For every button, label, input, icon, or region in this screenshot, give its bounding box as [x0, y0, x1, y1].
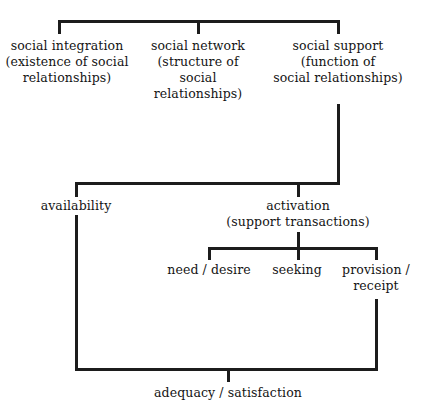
node-social-network: social network (structure of social rela… — [134, 38, 262, 102]
connector-level3-middle-stem — [297, 247, 300, 260]
node-need-desire: need / desire — [163, 262, 255, 278]
connector-availability-descender — [75, 215, 78, 371]
node-social-integration: social integration (existence of social … — [2, 38, 132, 86]
connector-level2-activation-stem — [297, 182, 300, 197]
connector-level3-left-stem — [208, 247, 211, 260]
node-social-support: social support (function of social relat… — [268, 38, 408, 86]
connector-provision-receipt-descender — [375, 299, 378, 371]
connector-top-bracket-right-stem — [337, 20, 340, 34]
connector-social-support-descender — [337, 104, 340, 185]
connector-top-bracket-middle-stem — [197, 20, 200, 34]
node-adequacy-satisfaction: adequacy / satisfaction — [149, 385, 307, 401]
connector-level3-right-stem — [375, 247, 378, 260]
connector-level2-left-stem — [75, 182, 78, 197]
node-activation: activation (support transactions) — [224, 198, 372, 230]
node-seeking: seeking — [262, 262, 332, 278]
node-provision-receipt: provision / receipt — [334, 262, 418, 294]
connector-adequacy-stem — [227, 368, 230, 382]
diagram-canvas: social integration (existence of social … — [0, 0, 432, 409]
node-availability: availability — [20, 198, 132, 214]
connector-level3-bracket-horizontal — [208, 247, 378, 250]
connector-top-bracket-left-stem — [58, 20, 61, 34]
connector-level2-bracket-horizontal — [75, 182, 340, 185]
